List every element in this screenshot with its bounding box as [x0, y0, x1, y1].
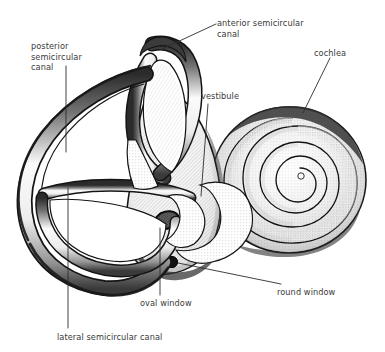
label-lateral-semicircular-canal: lateral semicircular canal	[57, 332, 162, 343]
label-posterior-semicircular-canal: posterior semicircular canal	[31, 41, 82, 73]
label-cochlea: cochlea	[314, 48, 346, 59]
figure-root: anterior semicircular canal posterior se…	[0, 0, 385, 352]
label-vestibule: vestibule	[201, 91, 239, 102]
cochlea-apex	[298, 173, 304, 179]
label-anterior-semicircular-canal: anterior semicircular canal	[217, 18, 304, 39]
leader-cochlea	[303, 58, 330, 113]
label-oval-window: oval window	[140, 298, 192, 309]
label-round-window: round window	[277, 287, 335, 298]
